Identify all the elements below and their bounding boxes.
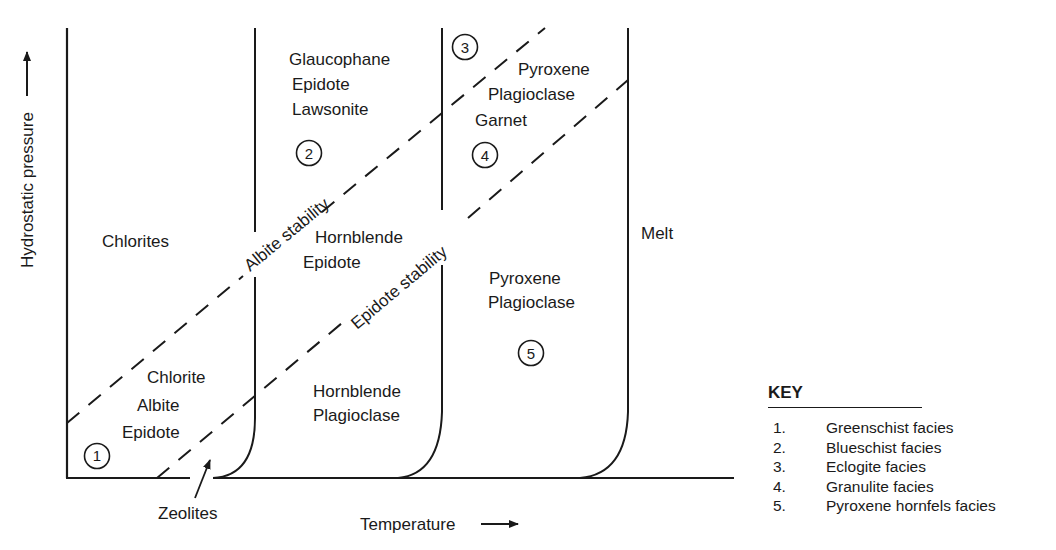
key-item-label: Greenschist facies	[826, 418, 954, 438]
mineral-pyroxene: Pyroxene	[489, 269, 561, 288]
svg-text:2: 2	[305, 145, 313, 162]
key-item: 3.Eclogite facies	[768, 457, 1056, 477]
key-item-number: 5.	[768, 496, 826, 516]
chlorites-label: Chlorites	[102, 232, 169, 251]
mineral-epidote: Epidote	[303, 253, 361, 272]
mineral-albite: Albite	[137, 396, 180, 415]
boundary-melt	[580, 28, 628, 478]
key-list: 1.Greenschist facies 2.Blueschist facies…	[768, 418, 1056, 516]
y-axis-label: Hydrostatic pressure	[18, 112, 37, 268]
mineral-lawsonite: Lawsonite	[292, 100, 369, 119]
mineral-epidote: Epidote	[122, 423, 180, 442]
boundary-2-lower	[213, 277, 255, 478]
svg-text:3: 3	[461, 39, 469, 56]
mineral-epidote: Epidote	[292, 75, 350, 94]
mineral-pyroxene: Pyroxene	[518, 60, 590, 79]
legend-key: KEY 1.Greenschist facies 2.Blueschist fa…	[768, 383, 1056, 516]
key-item-number: 3.	[768, 457, 826, 477]
svg-text:4: 4	[481, 147, 489, 164]
zeolites-arrow-icon	[195, 460, 210, 498]
mineral-plagioclase: Plagioclase	[313, 406, 400, 425]
boundary-3-lower	[398, 265, 442, 478]
key-item: 2.Blueschist facies	[768, 438, 1056, 458]
key-title: KEY	[768, 383, 922, 408]
x-axis-label: Temperature	[360, 515, 455, 534]
key-item-label: Eclogite facies	[826, 457, 926, 477]
facies1-minerals: Chlorite Albite Epidote	[122, 368, 206, 442]
svg-text:1: 1	[93, 447, 101, 464]
key-item: 1.Greenschist facies	[768, 418, 1056, 438]
key-item-number: 2.	[768, 438, 826, 458]
facies-marker-5: 5	[519, 341, 544, 366]
facies5-minerals: Pyroxene Plagioclase	[488, 269, 575, 312]
mineral-hornblende: Hornblende	[315, 228, 403, 247]
mineral-plagioclase: Plagioclase	[488, 85, 575, 104]
mineral-glaucophane: Glaucophane	[289, 50, 390, 69]
hornblende-plagioclase-minerals: Hornblende Plagioclase	[313, 382, 401, 425]
key-item-number: 4.	[768, 477, 826, 497]
mineral-chlorite: Chlorite	[147, 368, 206, 387]
key-item-label: Blueschist facies	[826, 438, 941, 458]
facies3-4-minerals: Pyroxene Plagioclase Garnet	[475, 60, 590, 130]
facies-marker-1: 1	[85, 444, 110, 469]
facies-marker-2: 2	[297, 141, 322, 166]
facies-marker-3: 3	[453, 35, 478, 60]
key-item-number: 1.	[768, 418, 826, 438]
mineral-plagioclase: Plagioclase	[488, 293, 575, 312]
mineral-garnet: Garnet	[475, 111, 527, 130]
facies-marker-4: 4	[473, 143, 498, 168]
key-item: 5.Pyroxene hornfels facies	[768, 496, 1056, 516]
facies2-minerals: Glaucophane Epidote Lawsonite	[289, 50, 390, 119]
key-item-label: Pyroxene hornfels facies	[826, 496, 996, 516]
mineral-hornblende: Hornblende	[313, 382, 401, 401]
key-item-label: Granulite facies	[826, 477, 934, 497]
epidote-stability-label: Epidote stability	[347, 242, 451, 333]
hornblende-epidote-minerals: Hornblende Epidote	[303, 228, 403, 272]
zeolites-label: Zeolites	[158, 504, 218, 523]
melt-label: Melt	[641, 224, 673, 243]
svg-text:5: 5	[527, 345, 535, 362]
key-item: 4.Granulite facies	[768, 477, 1056, 497]
